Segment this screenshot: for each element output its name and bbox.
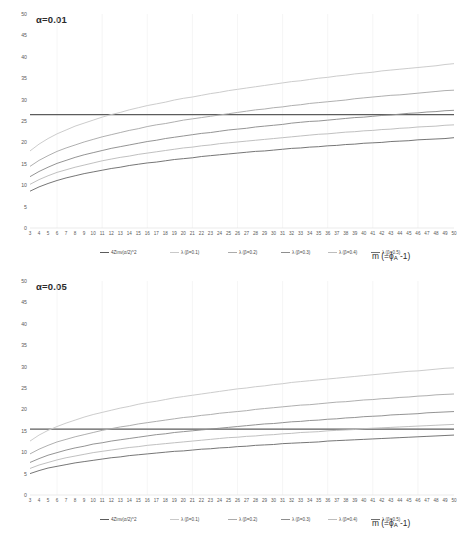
x-tick-label: 40 <box>361 498 366 503</box>
legend-item[interactable]: λ (β=0.4) <box>328 517 357 522</box>
x-tick-label: 7 <box>65 498 68 503</box>
series-line <box>30 394 454 454</box>
x-tick-label: 3 <box>29 231 32 236</box>
x-tick-label: 45 <box>406 498 411 503</box>
x-tick-label: 10 <box>91 231 96 236</box>
x-tick-label: 8 <box>74 231 77 236</box>
y-tick-label: 35 <box>21 342 27 348</box>
legend-swatch <box>281 252 290 253</box>
x-tick-label: 27 <box>244 231 249 236</box>
x-tick-label: 49 <box>442 231 447 236</box>
x-tick-label: 23 <box>208 231 213 236</box>
y-tick-label: 5 <box>24 204 27 210</box>
x-tick-label: 32 <box>289 498 294 503</box>
x-tick-label: 31 <box>280 231 285 236</box>
y-tick-label: 20 <box>21 139 27 145</box>
x-tick-label: 22 <box>199 498 204 503</box>
y-tick-label: 50 <box>21 11 27 17</box>
x-tick-label: 10 <box>91 498 96 503</box>
x-tick-label: 5 <box>47 498 50 503</box>
x-tick-label: 7 <box>65 231 68 236</box>
x-tick-label: 36 <box>325 498 330 503</box>
x-axis-title-text: m (=ϕA -1) <box>372 251 410 261</box>
x-tick-label: 42 <box>379 231 384 236</box>
legend-swatch <box>170 519 179 520</box>
plot-area-1 <box>30 14 454 234</box>
plot-area-2 <box>30 281 454 501</box>
legend-item[interactable]: λ (β=0.4) <box>328 250 357 255</box>
x-tick-label: 45 <box>406 231 411 236</box>
y-tick-label: 10 <box>21 182 27 188</box>
x-tick-label: 6 <box>56 498 59 503</box>
x-tick-label: 18 <box>163 231 168 236</box>
x-tick-label: 33 <box>298 498 303 503</box>
y-tick-label: 20 <box>21 406 27 412</box>
x-tick-label: 15 <box>136 231 141 236</box>
x-tick-label: 16 <box>145 231 150 236</box>
legend-item[interactable]: λ (β=0.3) <box>281 250 310 255</box>
legend-label: 4Zinv(α/2)^2 <box>111 517 137 522</box>
legend-label: λ (β=0.3) <box>292 517 310 522</box>
x-axis-labels-1: 3456789101112131415161718192021222324252… <box>30 231 454 243</box>
x-tick-label: 39 <box>352 231 357 236</box>
y-axis-labels-2: 05101520253035404550 <box>0 267 30 499</box>
legend-item[interactable]: λ (β=0.1) <box>170 517 199 522</box>
y-tick-label: 35 <box>21 75 27 81</box>
x-tick-label: 23 <box>208 498 213 503</box>
x-tick-label: 15 <box>136 498 141 503</box>
x-tick-label: 37 <box>334 498 339 503</box>
legend-swatch <box>100 519 109 520</box>
x-tick-label: 31 <box>280 498 285 503</box>
x-tick-label: 28 <box>253 498 258 503</box>
x-tick-label: 43 <box>388 498 393 503</box>
legend-label: λ (β=0.1) <box>181 517 199 522</box>
x-tick-label: 35 <box>316 231 321 236</box>
legend-item[interactable]: 4Zinv(α/2)^2 <box>100 250 137 255</box>
x-tick-label: 11 <box>100 231 105 236</box>
legend-swatch <box>281 519 290 520</box>
y-tick-label: 45 <box>21 32 27 38</box>
x-tick-label: 47 <box>424 498 429 503</box>
y-tick-label: 10 <box>21 449 27 455</box>
legend-swatch <box>100 252 109 253</box>
x-tick-label: 29 <box>262 231 267 236</box>
x-tick-label: 19 <box>172 231 177 236</box>
x-tick-label: 17 <box>154 231 159 236</box>
x-tick-label: 12 <box>109 498 114 503</box>
x-tick-label: 33 <box>298 231 303 236</box>
legend-swatch <box>328 252 337 253</box>
x-tick-label: 44 <box>397 498 402 503</box>
legend-item[interactable]: λ (β=0.1) <box>170 250 199 255</box>
y-tick-label: 5 <box>24 471 27 477</box>
legend-item[interactable]: λ (β=0.2) <box>228 517 257 522</box>
x-tick-label: 30 <box>271 498 276 503</box>
x-tick-label: 4 <box>38 231 41 236</box>
series-line <box>30 64 454 151</box>
legend-swatch <box>228 519 237 520</box>
x-tick-label: 20 <box>181 231 186 236</box>
legend-item[interactable]: 4Zinv(α/2)^2 <box>100 517 137 522</box>
x-tick-label: 49 <box>442 498 447 503</box>
series-line <box>30 125 454 184</box>
x-tick-label: 5 <box>47 231 50 236</box>
y-tick-label: 50 <box>21 278 27 284</box>
figure-root: α=0.01 05101520253035404550 345678910111… <box>0 0 466 533</box>
x-tick-label: 21 <box>190 231 195 236</box>
series-line <box>30 138 454 192</box>
x-tick-label: 19 <box>172 498 177 503</box>
x-tick-label: 29 <box>262 498 267 503</box>
y-tick-label: 25 <box>21 118 27 124</box>
x-tick-label: 48 <box>433 231 438 236</box>
x-tick-label: 36 <box>325 231 330 236</box>
x-tick-label: 34 <box>307 498 312 503</box>
legend-label: λ (β=0.1) <box>181 250 199 255</box>
legend-item[interactable]: λ (β=0.3) <box>281 517 310 522</box>
x-axis-title-2: m (=ϕA -1) <box>372 518 410 528</box>
x-tick-label: 16 <box>145 498 150 503</box>
x-tick-label: 37 <box>334 231 339 236</box>
x-tick-label: 24 <box>217 231 222 236</box>
x-tick-label: 6 <box>56 231 59 236</box>
x-tick-label: 12 <box>109 231 114 236</box>
x-tick-label: 20 <box>181 498 186 503</box>
legend-item[interactable]: λ (β=0.2) <box>228 250 257 255</box>
